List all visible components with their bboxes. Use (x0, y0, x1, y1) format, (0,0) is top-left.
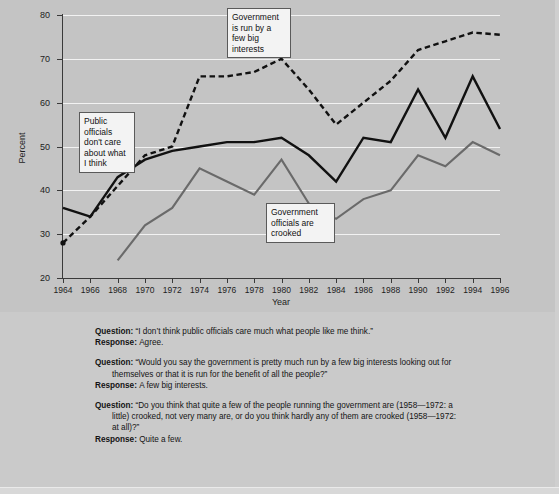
question-line: Question: “I don’t think public official… (95, 326, 515, 337)
line-chart: Percent Year 20304050607080 196419661968… (0, 0, 559, 312)
question-line: Question: “Do you think that quite a few… (95, 400, 515, 411)
question-response-list: Question: “I don’t think public official… (95, 326, 515, 454)
response-line: Response: Quite a few. (95, 434, 515, 445)
response-text: Quite a few. (139, 435, 182, 444)
callout-government-officials-are-crooked: Government officials are crooked (266, 203, 335, 243)
qa-block: Question: “I don’t think public official… (95, 326, 515, 348)
response-text: Agree. (139, 338, 163, 347)
response-line: Response: A few big interests. (95, 380, 515, 391)
series-line-2 (118, 142, 500, 260)
response-text: A few big interests. (139, 381, 208, 390)
response-label: Response: (95, 435, 139, 444)
question-continuation: at all)?” (95, 422, 515, 433)
callout-government-run-by-few-big-interests: Government is run by a few big interests (227, 8, 291, 58)
qa-block: Question: “Would you say the government … (95, 357, 515, 391)
response-label: Response: (95, 338, 139, 347)
question-line: Question: “Would you say the government … (95, 357, 515, 368)
question-label: Question: (95, 401, 135, 410)
question-continuation: themselves or that it is run for the ben… (95, 369, 515, 380)
response-label: Response: (95, 381, 139, 390)
question-text: “Do you think that quite a few of the pe… (135, 401, 452, 410)
response-line: Response: Agree. (95, 337, 515, 348)
question-label: Question: (95, 358, 135, 367)
question-continuation: little) crooked, not very many are, or d… (95, 411, 515, 422)
series-start-marker-0 (60, 240, 65, 245)
question-label: Question: (95, 327, 135, 336)
qa-block: Question: “Do you think that quite a few… (95, 400, 515, 445)
question-text: “Would you say the government is pretty … (135, 358, 451, 367)
callout-public-officials-dont-care: Public officials don't care about what I… (79, 112, 135, 173)
page-bottom-edge (0, 487, 559, 494)
question-text: “I don’t think public officials care muc… (135, 327, 372, 336)
